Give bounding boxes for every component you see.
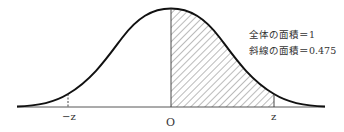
total-area-annotation: 全体の面積＝1 — [249, 30, 315, 40]
normal-curve-diagram — [0, 0, 344, 132]
origin-label: O — [166, 117, 175, 128]
neg-z-label: −z — [62, 112, 76, 122]
pos-z-label: z — [271, 112, 276, 122]
shaded-area-annotation: 斜線の面積＝0.475 — [249, 46, 336, 56]
shaded-area — [171, 9, 274, 108]
